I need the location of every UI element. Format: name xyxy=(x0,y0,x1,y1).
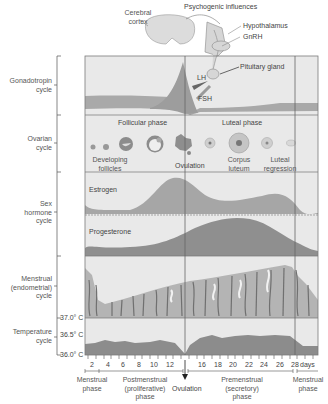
temp-36-label: 36.0° C xyxy=(60,351,83,359)
tick-2: 2 xyxy=(90,361,94,369)
progesterone-label: Progesterone xyxy=(89,228,131,236)
ovarian-label: Ovarian cycle xyxy=(0,135,52,152)
tick-10: 10 xyxy=(150,361,158,369)
gnrh-label: GnRH xyxy=(243,33,262,41)
luteal-regression-label: Luteal regression xyxy=(262,156,298,173)
sex-hormone-label: Sex hormone cycle xyxy=(0,200,52,226)
tick-20: 20 xyxy=(229,361,237,369)
days-label: days xyxy=(300,361,315,369)
lh-label: LH xyxy=(197,74,206,82)
luteal-phase-label: Luteal phase xyxy=(222,119,262,127)
menstrual-phase-label-2: Menstrual phase xyxy=(288,376,328,393)
day-ticks xyxy=(88,355,313,359)
tick-26: 26 xyxy=(276,361,284,369)
fsh-label: FSH xyxy=(198,95,212,103)
row-bracket xyxy=(54,56,61,355)
tick-12: 12 xyxy=(166,361,174,369)
menstrual-label: Menstrual (endometrial) cycle xyxy=(0,275,52,301)
ovulation-ovarian-label: Ovulation xyxy=(175,162,205,170)
tick-28: 28 xyxy=(291,361,299,369)
tick-6: 6 xyxy=(121,361,125,369)
tick-22: 22 xyxy=(245,361,253,369)
cerebral-cortex-label: Cerebral cortex xyxy=(108,9,168,26)
tick-24: 24 xyxy=(260,361,268,369)
tick-18: 18 xyxy=(214,361,222,369)
tick-8: 8 xyxy=(137,361,141,369)
corpus-luteum-label: Corpus luteum xyxy=(224,156,254,173)
temp-37-label: 37.0° C xyxy=(60,314,83,322)
estrogen-label: Estrogen xyxy=(89,186,117,194)
menstrual-phase-label-1: Menstrual phase xyxy=(72,376,112,393)
premenstrual-phase-label: Premenstrual (secretory) phase xyxy=(212,376,272,402)
developing-follicles-label: Developing follicles xyxy=(90,156,130,173)
gonadotropin-label: Gonadotropin cycle xyxy=(0,77,52,94)
temperature-label: Temperature cycle xyxy=(0,328,52,345)
phase-brackets xyxy=(85,369,318,373)
psychogenic-label: Psychogenic influences xyxy=(184,3,257,11)
follicular-phase-label: Follicular phase xyxy=(118,119,167,127)
tick-16: 16 xyxy=(198,361,206,369)
temp-365-label: 36.5° C xyxy=(60,331,83,339)
pituitary-label: Pituitary gland xyxy=(240,63,284,71)
tick-4: 4 xyxy=(106,361,110,369)
hypothalamus-label: Hypothalamus xyxy=(243,22,288,30)
postmenstrual-phase-label: Postmenstrual (proliferative) phase xyxy=(115,376,175,402)
ovulation-phase-label: Ovulation xyxy=(172,385,202,393)
